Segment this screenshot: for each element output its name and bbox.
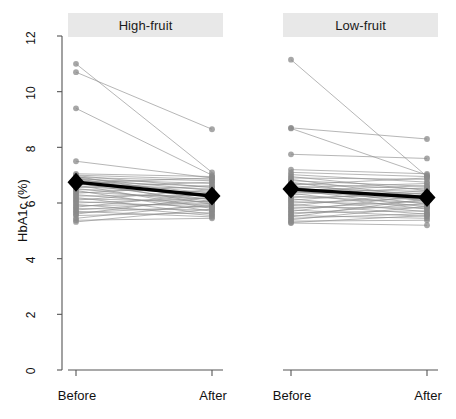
chart-figure: HbA1c (%) 0 2 4 6 8 10 12 High-fruit Low… <box>0 0 456 419</box>
x-tick-label-before-low: Before <box>257 388 327 403</box>
plot-canvas <box>0 0 456 419</box>
x-tick-label-after-low: After <box>393 388 456 403</box>
x-tick-label-after-high: After <box>178 388 248 403</box>
x-tick-label-before-high: Before <box>42 388 112 403</box>
